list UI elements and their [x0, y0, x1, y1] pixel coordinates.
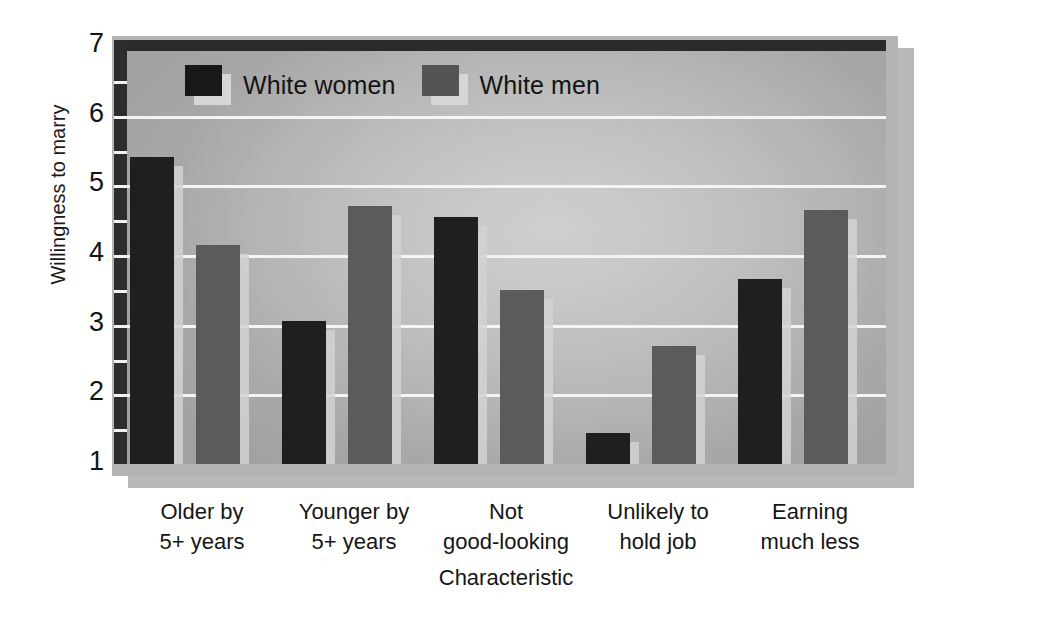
- x-axis-category-label: Older by5+ years: [126, 497, 278, 567]
- x-axis-category-labels: Older by5+ yearsYounger by5+ yearsNotgoo…: [126, 497, 886, 567]
- axis-tick: [114, 116, 127, 119]
- bar-body: [738, 279, 782, 464]
- bar-body: [434, 217, 478, 464]
- x-axis-category-line: 5+ years: [278, 527, 430, 557]
- bar-body: [282, 321, 326, 464]
- legend-label-men: White men: [480, 71, 600, 100]
- bar-women[interactable]: [738, 279, 782, 464]
- gridline: [126, 116, 886, 119]
- y-axis-tick-label: 4: [64, 237, 104, 268]
- bar-women[interactable]: [586, 433, 630, 464]
- legend-swatch-women-wrap: [185, 65, 231, 105]
- gridline: [126, 185, 886, 188]
- legend-swatch-men-icon: [422, 65, 459, 96]
- bar-body: [130, 157, 174, 464]
- x-axis-category-line: Not: [430, 497, 582, 527]
- axis-tick: [114, 325, 127, 328]
- y-axis-tick-label: 2: [64, 376, 104, 407]
- bar-body: [586, 433, 630, 464]
- axis-tick: [114, 290, 127, 293]
- x-axis-category-line: Earning: [734, 497, 886, 527]
- chart-legend: White women White men: [185, 65, 600, 105]
- bar-women[interactable]: [130, 157, 174, 464]
- x-axis-title: Characteristic: [126, 565, 886, 591]
- x-axis-category-label: Younger by5+ years: [278, 497, 430, 567]
- axis-tick: [114, 151, 127, 154]
- x-axis-category-line: good-looking: [430, 527, 582, 557]
- bar-men[interactable]: [500, 290, 544, 464]
- axis-tick: [114, 185, 127, 188]
- bar-women[interactable]: [282, 321, 326, 464]
- x-axis-category-label: Notgood-looking: [430, 497, 582, 567]
- legend-swatch-men-wrap: [422, 65, 468, 105]
- bar-women[interactable]: [434, 217, 478, 464]
- x-axis-category-label: Unlikely tohold job: [582, 497, 734, 567]
- x-axis-category-label: Earningmuch less: [734, 497, 886, 567]
- bar-men[interactable]: [196, 245, 240, 464]
- y-axis-title: Willingness to marry: [47, 75, 70, 315]
- axis-top-line: [114, 40, 886, 51]
- bar-men[interactable]: [652, 346, 696, 464]
- bar-body: [196, 245, 240, 464]
- y-axis-tick-label: 7: [64, 28, 104, 59]
- x-axis-category-line: 5+ years: [126, 527, 278, 557]
- x-axis-category-line: hold job: [582, 527, 734, 557]
- x-axis-category-line: Older by: [126, 497, 278, 527]
- x-axis-category-line: Younger by: [278, 497, 430, 527]
- x-axis-category-line: Unlikely to: [582, 497, 734, 527]
- axis-tick: [114, 429, 127, 432]
- legend-item-women[interactable]: White women: [185, 65, 396, 105]
- bar-body: [348, 206, 392, 464]
- bar-men[interactable]: [804, 210, 848, 464]
- bar-body: [652, 346, 696, 464]
- axis-left-line: [114, 40, 127, 464]
- y-axis-tick-label: 3: [64, 307, 104, 338]
- legend-item-men[interactable]: White men: [422, 65, 600, 105]
- plot-area: [126, 46, 886, 464]
- y-axis-tick-label: 6: [64, 98, 104, 129]
- axis-tick: [114, 81, 127, 84]
- y-axis-tick-label: 5: [64, 167, 104, 198]
- bar-body: [500, 290, 544, 464]
- bar-body: [804, 210, 848, 464]
- legend-label-women: White women: [243, 71, 396, 100]
- chart-figure: White women White men 7654321 Willingnes…: [0, 0, 1042, 622]
- y-axis-tick-label: 1: [64, 446, 104, 477]
- bar-men[interactable]: [348, 206, 392, 464]
- legend-swatch-women-icon: [185, 65, 222, 96]
- axis-tick: [114, 220, 127, 223]
- axis-tick: [114, 255, 127, 258]
- x-axis-category-line: much less: [734, 527, 886, 557]
- axis-tick: [114, 394, 127, 397]
- axis-tick: [114, 360, 127, 363]
